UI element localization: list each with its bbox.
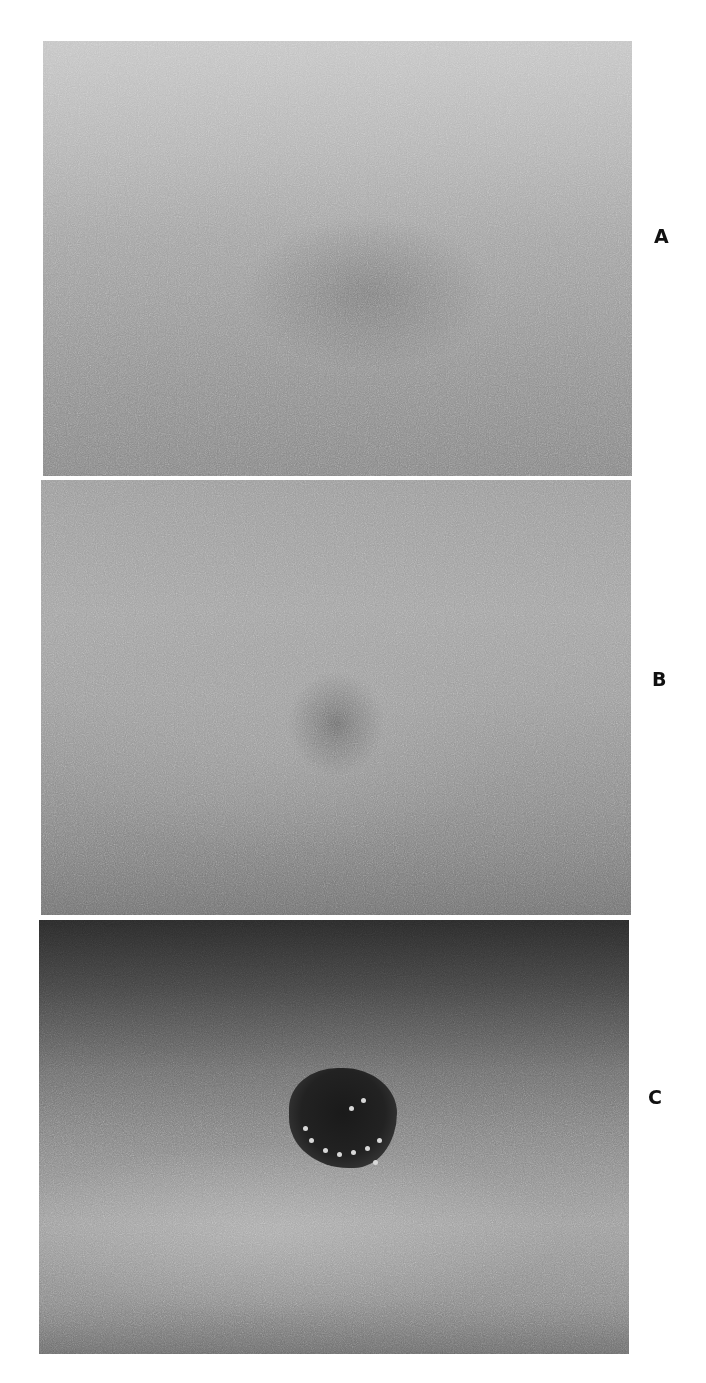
- photo-panel-b: [41, 480, 631, 915]
- texture-overlay: [41, 480, 631, 915]
- pigmented-lesion: [289, 1068, 397, 1168]
- panel-label-c: C: [648, 1086, 662, 1108]
- panel-label-a: A: [654, 225, 669, 247]
- texture-overlay: [43, 41, 632, 476]
- photo-panel-a: [43, 41, 632, 476]
- panel-label-b: B: [652, 668, 666, 690]
- photo-panel-c: [39, 920, 629, 1354]
